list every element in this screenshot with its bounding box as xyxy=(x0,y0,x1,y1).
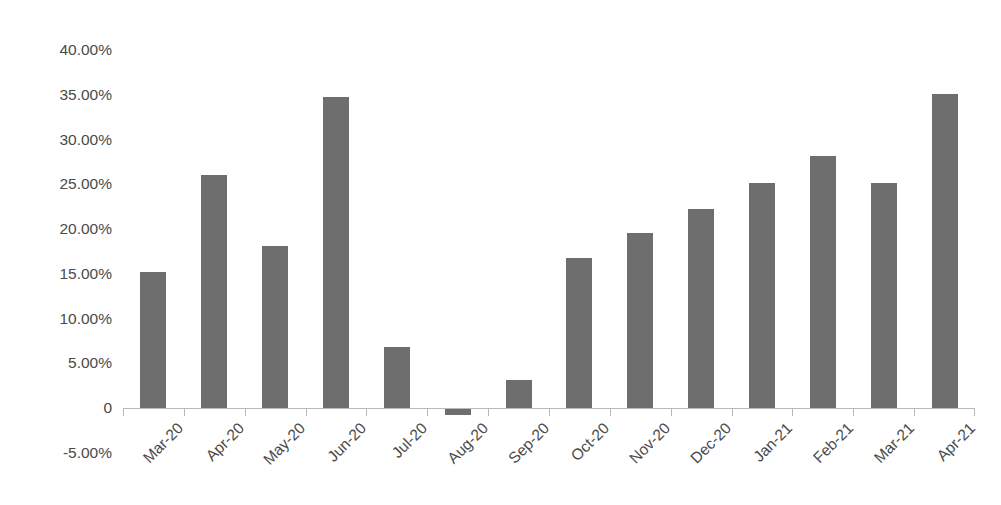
y-axis-tick-label: 20.00% xyxy=(0,221,112,237)
bar xyxy=(323,97,349,408)
y-axis-tick-label: 0 xyxy=(0,400,112,416)
y-axis-tick-label: 30.00% xyxy=(0,132,112,148)
y-axis: 40.00%35.00%30.00%25.00%20.00%15.00%10.0… xyxy=(0,0,112,505)
y-axis-tick-label: -5.00% xyxy=(0,445,112,461)
bar-chart: 40.00%35.00%30.00%25.00%20.00%15.00%10.0… xyxy=(0,0,1001,505)
x-axis-tick-label: Jun-20 xyxy=(324,420,368,464)
x-axis-tick-label: Dec-20 xyxy=(688,420,734,466)
x-axis-tick-label: Oct-20 xyxy=(569,420,613,464)
y-axis-tick-label: 10.00% xyxy=(0,311,112,327)
x-axis-tick-label: Sep-20 xyxy=(505,420,551,466)
x-axis-tick-label: Jan-21 xyxy=(750,420,794,464)
y-axis-tick-label: 25.00% xyxy=(0,177,112,193)
y-axis-tick-label: 15.00% xyxy=(0,266,112,282)
bar xyxy=(810,156,836,408)
bar xyxy=(201,175,227,408)
x-axis-tick-label: Apr-21 xyxy=(934,420,978,464)
x-axis-tick-label: May-20 xyxy=(261,420,309,468)
bar xyxy=(140,272,166,408)
bar xyxy=(384,347,410,408)
x-axis-tick-label: Apr-20 xyxy=(203,420,247,464)
y-axis-tick-label: 5.00% xyxy=(0,356,112,372)
x-axis-tick-label: Feb-21 xyxy=(810,420,856,466)
y-axis-tick-label: 35.00% xyxy=(0,87,112,103)
bar xyxy=(627,233,653,408)
y-axis-tick-label: 40.00% xyxy=(0,42,112,58)
bar xyxy=(749,183,775,408)
x-axis-tick-label: Nov-20 xyxy=(627,420,673,466)
bar xyxy=(262,246,288,408)
x-axis-tick-label: Jul-20 xyxy=(389,420,430,461)
x-axis-tick-label: Mar-20 xyxy=(141,420,187,466)
bar xyxy=(932,94,958,408)
x-axis: Mar-20Apr-20May-20Jun-20Jul-20Aug-20Sep-… xyxy=(123,414,975,505)
bar xyxy=(566,258,592,408)
bar xyxy=(506,380,532,408)
x-axis-tick-label: Aug-20 xyxy=(444,420,490,466)
x-axis-tick-label: Mar-21 xyxy=(871,420,917,466)
bar xyxy=(871,183,897,408)
bar xyxy=(688,209,714,408)
